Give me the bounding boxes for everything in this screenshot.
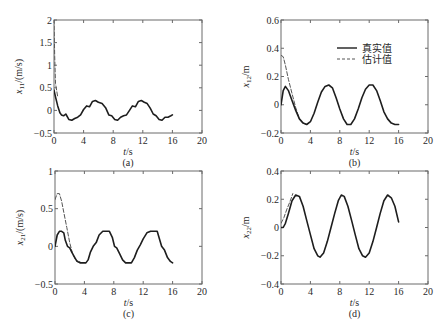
- y-tick-label: 1.5: [40, 37, 53, 48]
- x-tick-label: 4: [81, 135, 86, 146]
- y-axis-label: x22/m: [240, 216, 253, 239]
- y-tick-label: 0.4: [267, 166, 280, 177]
- legend-label: 估计值: [362, 53, 392, 65]
- axes-frame: [55, 171, 202, 284]
- y-tick-label: −0.5: [34, 128, 52, 139]
- estimated-value-line: [281, 55, 307, 124]
- true-value-line: [55, 231, 173, 263]
- subplot-caption: (c): [123, 308, 134, 320]
- x-axis-label: t/s: [350, 146, 360, 157]
- subplot-caption: (b): [349, 157, 361, 169]
- x-tick-label: 0: [52, 135, 57, 146]
- y-tick-label: 2: [47, 15, 52, 26]
- x-tick-label: 4: [308, 135, 313, 146]
- figure: 048121620−0.500.511.52t/s(a)x11/(m/s) 04…: [0, 0, 447, 329]
- x-tick-label: 20: [197, 286, 207, 297]
- y-tick-label: 0.2: [267, 194, 280, 205]
- x-tick-label: 20: [423, 135, 433, 146]
- estimated-value-line: [54, 20, 58, 97]
- subplot-c: 048121620−0.500.51t/s(c)x21/(m/s): [14, 166, 207, 321]
- x-tick-label: 4: [82, 286, 87, 297]
- subplot-a: 048121620−0.500.511.52t/s(a)x11/(m/s): [13, 15, 207, 170]
- y-tick-label: 0.5: [41, 203, 54, 214]
- x-tick-label: 8: [337, 286, 342, 297]
- legend-label: 真实值: [362, 42, 392, 54]
- x-tick-label: 12: [138, 286, 148, 297]
- x-tick-label: 4: [308, 286, 313, 297]
- true-value-line: [281, 85, 399, 125]
- y-tick-label: −0.5: [35, 279, 53, 290]
- x-tick-label: 8: [111, 286, 116, 297]
- y-tick-label: 1: [48, 166, 53, 177]
- y-tick-label: 0.5: [40, 82, 53, 93]
- y-axis-label: x21/(m/s): [14, 210, 27, 246]
- x-tick-label: 0: [279, 135, 284, 146]
- axes-frame: [54, 20, 202, 133]
- y-axis-label: x11/(m/s): [13, 59, 26, 95]
- x-tick-label: 20: [197, 135, 207, 146]
- subplot-caption: (d): [349, 308, 361, 320]
- y-tick-label: 0.2: [267, 71, 280, 82]
- true-value-line: [281, 195, 399, 257]
- y-tick-label: 0.4: [267, 43, 280, 54]
- y-tick-label: −0.2: [261, 250, 279, 261]
- axes-frame: [281, 20, 428, 133]
- x-axis-label: t/s: [350, 297, 360, 308]
- x-tick-label: 12: [138, 135, 148, 146]
- y-tick-label: −0.2: [261, 128, 279, 139]
- y-axis-label: x12/m: [240, 65, 253, 88]
- subplot-d: 048121620−0.4−0.200.20.4t/s(d)x22/m: [240, 166, 433, 321]
- x-tick-label: 12: [364, 135, 374, 146]
- subplot-b: 048121620−0.200.20.40.6t/s(b)x12/m真实值估计值: [240, 15, 433, 170]
- x-tick-label: 16: [167, 135, 177, 146]
- x-tick-label: 0: [53, 286, 58, 297]
- estimated-value-line: [55, 194, 82, 263]
- true-value-line: [54, 90, 172, 120]
- x-tick-label: 16: [168, 286, 178, 297]
- legend: 真实值估计值: [337, 42, 392, 65]
- x-tick-label: 20: [423, 286, 433, 297]
- y-tick-label: −0.4: [261, 279, 279, 290]
- x-tick-label: 0: [279, 286, 284, 297]
- x-axis-label: t/s: [123, 146, 133, 157]
- x-tick-label: 8: [111, 135, 116, 146]
- y-tick-label: 0.6: [267, 15, 280, 26]
- y-tick-label: 1: [47, 60, 52, 71]
- subplot-caption: (a): [122, 157, 133, 169]
- y-tick-label: 0: [48, 241, 53, 252]
- y-tick-label: 0: [274, 222, 279, 233]
- y-tick-label: 0: [47, 105, 52, 116]
- y-tick-label: 0: [274, 99, 279, 110]
- x-axis-label: t/s: [124, 297, 134, 308]
- x-tick-label: 12: [364, 286, 374, 297]
- axes-frame: [281, 171, 428, 284]
- x-tick-label: 8: [337, 135, 342, 146]
- x-tick-label: 16: [394, 135, 404, 146]
- x-tick-label: 16: [394, 286, 404, 297]
